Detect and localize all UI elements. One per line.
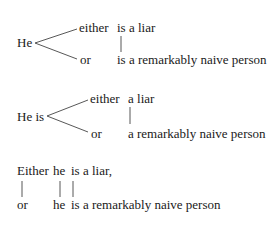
subject-top: he	[53, 164, 65, 177]
branch-or: or	[80, 53, 91, 66]
fork-line-lower-1	[35, 43, 77, 59]
fork-line-upper-2	[47, 100, 88, 116]
branch-either: either	[90, 92, 120, 105]
subject: He is	[17, 110, 44, 123]
subject-bottom: he	[53, 198, 65, 211]
conj-or: or	[17, 198, 28, 211]
predicate-bottom: is a remarkably naive person	[71, 198, 220, 211]
predicate-top: is a liar,	[71, 164, 112, 177]
conj-either: Either	[17, 164, 49, 177]
predicate-top: is a liar	[117, 21, 155, 34]
subject: He	[17, 36, 32, 49]
predicate-top: a liar	[128, 92, 154, 105]
predicate-bottom: is a remarkably naive person	[117, 53, 266, 66]
branch-or: or	[91, 127, 102, 140]
branch-either: either	[79, 21, 109, 34]
fork-line-upper-1	[35, 29, 77, 43]
fork-line-lower-2	[47, 116, 88, 132]
predicate-bottom: a remarkably naive person	[128, 127, 266, 140]
